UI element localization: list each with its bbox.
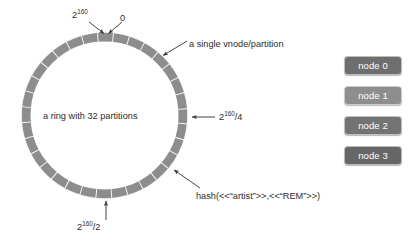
arrow-zero-top <box>109 22 123 34</box>
arrow-hash-leader <box>174 170 200 188</box>
legend-item-node-1-label: node 1 <box>358 90 388 101</box>
arrow-vnode-leader <box>163 41 187 56</box>
label-ring-half-suffix: /2 <box>93 222 101 232</box>
arrow-2160-top <box>89 22 104 34</box>
legend-item-node-3-label: node 3 <box>358 150 388 161</box>
label-ring-half-exponent: 160 <box>82 220 93 227</box>
label-ring-quarter-exponent: 160 <box>224 110 235 117</box>
legend-item-node-0-label: node 0 <box>358 60 388 71</box>
label-ring-zero: 0 <box>120 13 125 23</box>
legend-item-node-2-label: node 2 <box>358 120 388 131</box>
legend-item-node-3: node 3 <box>344 146 402 165</box>
label-hash-expression: hash(<<“artist”>>,<<“REM”>>) <box>196 191 320 201</box>
label-ring-quarter: 2160/4 <box>219 112 242 122</box>
label-ring-quarter-suffix: /4 <box>235 112 243 122</box>
node-legend: node 0 node 1 node 2 node 3 <box>344 56 402 165</box>
label-ring-description: a ring with 32 partitions <box>43 111 137 121</box>
label-ring-half: 2160/2 <box>77 222 100 232</box>
legend-item-node-2: node 2 <box>344 116 402 135</box>
label-ring-max: 2160 <box>72 10 88 20</box>
legend-item-node-0: node 0 <box>344 56 402 75</box>
ring-diagram: 2160 0 2160/2 2160/4 a single vnode/part… <box>0 0 415 247</box>
label-ring-max-exponent: 160 <box>77 8 88 15</box>
label-single-vnode: a single vnode/partition <box>189 39 284 49</box>
legend-item-node-1: node 1 <box>344 86 402 105</box>
